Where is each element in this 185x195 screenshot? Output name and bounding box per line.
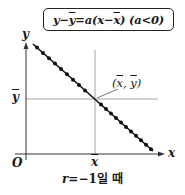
y-axis-label: y <box>22 27 29 41</box>
x-mean-label: x <box>91 155 98 169</box>
x-axis-arrow-icon <box>158 152 165 157</box>
formula-rhs-var: x <box>97 13 104 27</box>
center-point-label: (x, y) <box>112 76 141 90</box>
formula-equals: = <box>75 13 84 27</box>
figure-caption: r=−1일 때 <box>0 169 185 186</box>
y-mean-label: y <box>12 90 19 104</box>
formula-close-paren: ) <box>120 13 129 27</box>
y-axis-arrow-icon <box>24 42 29 49</box>
formula-condition: (a<0) <box>129 13 164 27</box>
caption-value: −1 <box>78 172 96 186</box>
caption-suffix: 일 때 <box>97 172 123 186</box>
regression-formula-box: y−y=a(x−x) (a<0) <box>43 8 174 31</box>
formula-coef: a <box>85 13 92 27</box>
formula-minus-1: − <box>59 13 68 27</box>
x-axis-label: x <box>168 146 175 160</box>
formula-minus-2: − <box>104 13 113 27</box>
caption-equals: = <box>68 172 78 186</box>
center-point-leader-line <box>97 89 118 98</box>
origin-label: O <box>12 156 22 170</box>
